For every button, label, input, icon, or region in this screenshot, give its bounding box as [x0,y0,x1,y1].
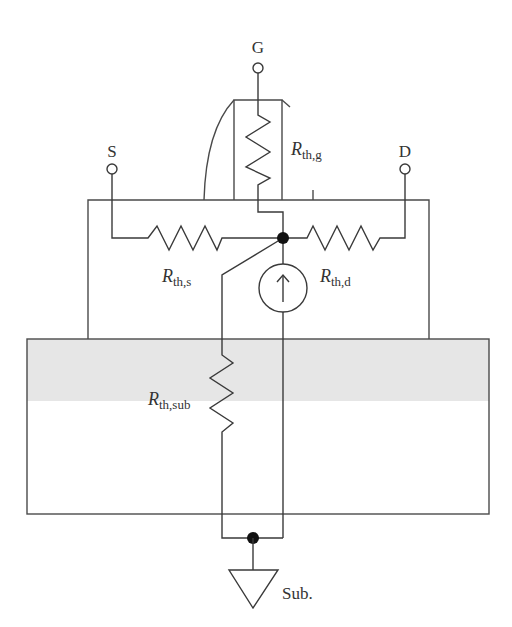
gate-label: G [252,38,264,57]
substrate-label: Sub. [282,584,313,603]
source-label: S [107,142,116,161]
drain-resistor [283,174,405,250]
ground-triangle-icon [229,570,278,608]
junction-node [277,232,289,244]
rthg-label: Rth,g [290,139,322,162]
drain-terminal [400,164,410,174]
gate-resistor [246,73,283,238]
source-terminal [107,164,117,174]
rthd-label: Rth,d [319,266,351,289]
gate-terminal [253,63,263,73]
gate-tick [282,100,290,107]
rths-label: Rth,s [161,266,191,289]
drain-label: D [399,142,411,161]
thermal-circuit-diagram: G S D Sub. Rth,g Rth,s Rth,d Rth,sub [0,0,512,627]
gate-arc [204,100,234,200]
substrate-shaded-layer [27,339,489,401]
device-box [88,200,429,339]
